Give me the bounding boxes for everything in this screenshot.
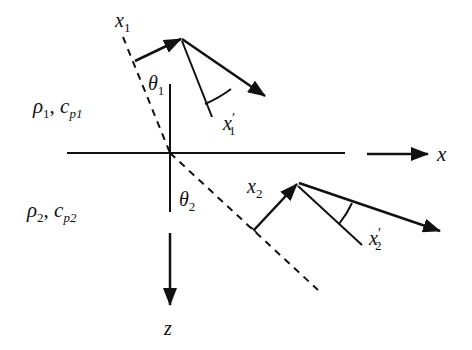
frame1-angle-arc	[205, 89, 231, 104]
x2-prime-label: x′2	[368, 226, 381, 253]
theta2-label: θ2	[179, 188, 195, 214]
x1-label: x1	[114, 9, 130, 35]
medium2-label: ρ2, cp2	[26, 198, 77, 225]
z-axis-label: z	[163, 317, 172, 339]
x-axis-label: x	[436, 142, 447, 166]
x1-prime-vector-arrow	[182, 39, 265, 96]
theta1-label: θ1	[148, 72, 164, 98]
x2-label: x2	[246, 175, 262, 201]
medium1-label: ρ1, cp1	[32, 94, 82, 121]
frame2-angle-arc	[339, 203, 352, 224]
refracted-ray-dashed	[170, 153, 318, 290]
frame1-normal-line	[182, 41, 212, 117]
diagram-canvas: x1 θ1 x′1 ρ1, cp1 ρ2, cp2 θ2 x2 x′2 x z	[0, 0, 472, 350]
x1-prime-label: x′1	[222, 111, 235, 138]
x1-vector-arrow	[135, 39, 181, 61]
